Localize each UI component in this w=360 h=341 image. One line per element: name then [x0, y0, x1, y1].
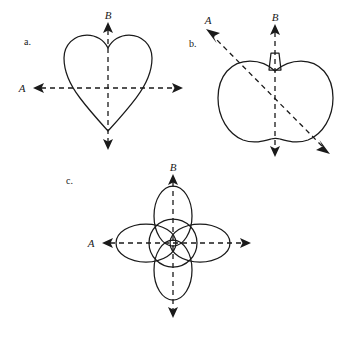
panel-b-axis-a-lowerright-arrowhead [316, 140, 330, 154]
panel-b-group: b. A B [189, 11, 333, 157]
panel-c-axis-a-right-arrowhead [240, 238, 251, 248]
symmetry-axes-figure: a. A B b. [0, 0, 360, 341]
panel-b-axis-b-bottom-arrowhead [270, 146, 280, 157]
figure-container: a. A B b. [0, 0, 360, 341]
panel-a-group: a. A B [18, 9, 183, 150]
panel-a-axis-b-label: B [105, 9, 112, 21]
panel-a-axis-a-label: A [18, 82, 26, 94]
panel-b-axis-b-line [270, 24, 280, 157]
panel-b-letter: b. [189, 38, 197, 49]
panel-b-axis-a-line [206, 29, 330, 154]
panel-c-letter: c. [66, 175, 73, 186]
panel-c-group: c. A B [66, 161, 251, 318]
panel-b-axis-b-label: B [272, 11, 279, 23]
panel-a-axis-a-right-arrowhead [172, 83, 183, 93]
panel-c-axis-b-label: B [170, 161, 177, 173]
panel-c-axis-a-label: A [87, 237, 95, 249]
panel-b-axis-a-label: A [204, 14, 212, 26]
apple-shape [218, 61, 333, 142]
panel-a-letter: a. [24, 36, 31, 47]
